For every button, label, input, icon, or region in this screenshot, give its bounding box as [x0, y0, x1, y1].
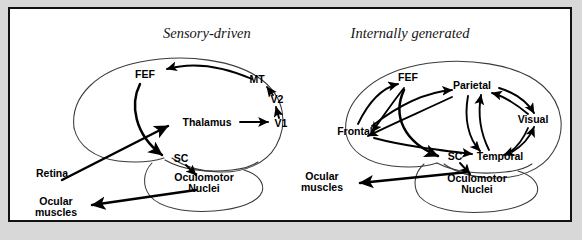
connection-frontal-parietal [372, 90, 452, 126]
node-label-temporal: Temporal [477, 150, 524, 162]
node-label-fef-left: FEF [135, 68, 155, 80]
connection-retina-thalamus [62, 126, 168, 180]
connection-visual-parietal [492, 93, 528, 114]
cerebrum-ventral-edge-right [346, 134, 437, 167]
panel-internally-generated: Internally generated [301, 25, 561, 212]
node-label-sc-left: SC [174, 152, 189, 164]
panel-sensory-driven: Sensory-driven F [35, 25, 288, 218]
node-label-visual: Visual [518, 113, 549, 125]
panel-title-internally: Internally generated [350, 25, 471, 41]
node-label-v2: V2 [271, 93, 284, 105]
node-label-retina: Retina [36, 167, 68, 179]
connection-parietal-temporal [467, 96, 481, 151]
node-label-parietal: Parietal [453, 79, 491, 91]
connection-fef-sc [135, 84, 162, 155]
node-label-muscles-left: muscles [35, 206, 77, 218]
node-label-frontal: Frontal [337, 125, 373, 137]
node-label-v1: V1 [275, 117, 288, 129]
figure-container: Sensory-driven F [0, 0, 582, 240]
node-label-sc-right: SC [448, 150, 463, 162]
node-label-muscles-right: muscles [301, 181, 343, 193]
node-label-mt: MT [249, 73, 265, 85]
connection-oculomotor-ocular-muscles [92, 190, 196, 205]
connection-temporal-parietal [480, 95, 489, 150]
connection-fef-sc-right [399, 90, 438, 156]
node-label-nuclei-left: Nuclei [188, 182, 220, 194]
node-label-nuclei-right: Nuclei [461, 183, 493, 195]
connection-parietal-visual [499, 88, 534, 113]
brain-connectivity-diagram: Sensory-driven F [0, 0, 582, 240]
panel-title-sensory: Sensory-driven [163, 25, 251, 41]
node-label-fef-right: FEF [398, 71, 418, 83]
node-label-thalamus: Thalamus [182, 116, 231, 128]
